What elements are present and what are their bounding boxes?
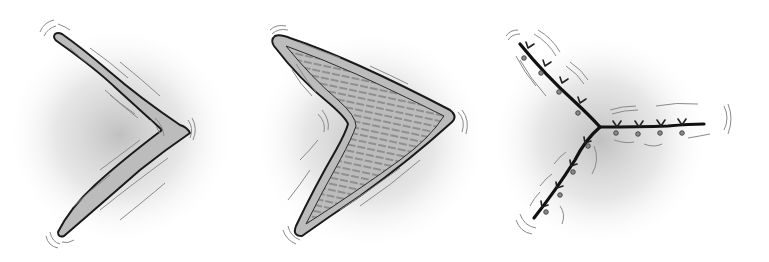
arrowhead-figure — [252, 26, 488, 253]
chevron-shadow — [5, 25, 235, 245]
illustration-canvas — [0, 0, 769, 262]
chevron-figure — [5, 20, 235, 248]
branch-figure — [490, 30, 731, 248]
illustration — [0, 0, 769, 262]
